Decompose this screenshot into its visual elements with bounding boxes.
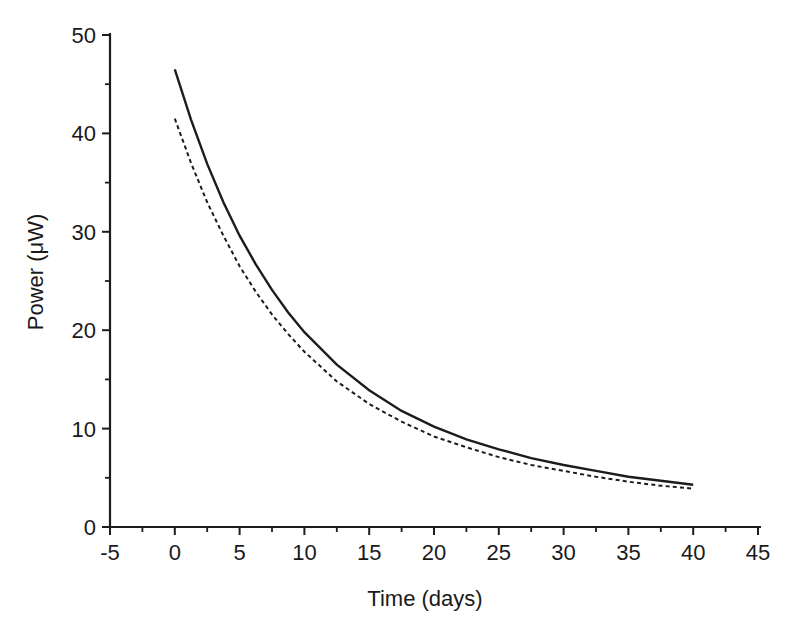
x-tick-label: 0 [169,540,181,565]
y-tick-label: 40 [72,121,96,146]
dashed-curve [175,119,693,489]
x-tick-label: -5 [100,540,120,565]
x-tick-label: 40 [681,540,705,565]
x-axis-title: Time (days) [367,586,482,611]
power-decay-chart: -505101520253035404501020304050 Time (da… [0,0,793,632]
y-tick-label: 30 [72,220,96,245]
x-tick-label: 35 [616,540,640,565]
x-tick-label: 45 [746,540,770,565]
x-tick-label: 30 [551,540,575,565]
solid-curve [175,69,693,484]
plot-area: -505101520253035404501020304050 [72,23,771,565]
x-tick-label: 10 [292,540,316,565]
x-tick-label: 25 [487,540,511,565]
figure: -505101520253035404501020304050 Time (da… [0,0,793,632]
x-tick-label: 20 [422,540,446,565]
y-tick-label: 20 [72,318,96,343]
x-tick-label: 5 [233,540,245,565]
y-tick-label: 10 [72,417,96,442]
y-tick-label: 0 [84,515,96,540]
y-axis-title: Power (μW) [23,214,48,331]
x-tick-label: 15 [357,540,381,565]
y-tick-label: 50 [72,23,96,48]
